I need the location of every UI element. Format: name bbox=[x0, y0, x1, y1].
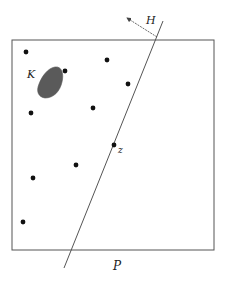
label-z: z bbox=[117, 145, 123, 155]
point-dot bbox=[74, 163, 79, 168]
point-dot bbox=[29, 111, 34, 116]
point-dot bbox=[63, 69, 68, 74]
point-dot bbox=[112, 143, 117, 148]
point-dot bbox=[105, 58, 110, 63]
label-p: P bbox=[112, 259, 122, 273]
point-dot bbox=[126, 82, 131, 87]
point-set bbox=[21, 50, 131, 225]
point-dot bbox=[24, 50, 29, 55]
point-dot bbox=[21, 220, 26, 225]
convex-set-k-blob bbox=[38, 67, 63, 98]
point-dot bbox=[91, 106, 96, 111]
point-dot bbox=[31, 176, 36, 181]
diagram: H K z P bbox=[0, 0, 226, 284]
label-k: K bbox=[26, 68, 36, 81]
label-h: H bbox=[145, 14, 156, 27]
